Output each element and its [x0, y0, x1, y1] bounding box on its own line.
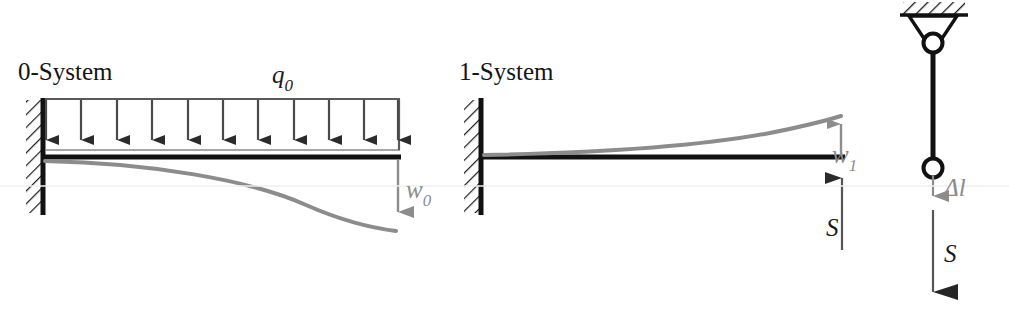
deflection-label-w0: w0	[406, 176, 432, 210]
fixed-support-one	[464, 98, 481, 215]
deflection-curve-one	[484, 116, 841, 155]
deflection-curve-zero	[45, 161, 396, 231]
one-system-panel: 1-System w1 S	[459, 58, 900, 250]
pinned-support-ceiling	[900, 2, 968, 15]
diagram-canvas: 0-System q0 w0 1-System w1 S	[0, 0, 1009, 321]
engineering-diagram: 0-System q0 w0 1-System w1 S	[0, 0, 1009, 321]
zero-system-title: 0-System	[18, 58, 113, 85]
ceiling-hatch	[903, 2, 965, 15]
load-label-q0: q0	[272, 61, 294, 95]
bottom-hinge-circle	[924, 159, 943, 178]
deflection-label-w1: w1	[832, 141, 857, 175]
elongation-label: Δl	[943, 174, 966, 201]
distributed-load-zero	[45, 99, 400, 150]
force-label-s-rod: S	[944, 240, 957, 267]
support-hatch-zero	[26, 100, 43, 213]
rod-panel: Δl S	[900, 2, 1009, 292]
zero-system-panel: 0-System q0 w0	[0, 58, 460, 231]
one-system-title: 1-System	[459, 58, 554, 85]
support-hatch-one	[464, 100, 481, 213]
fixed-support-zero	[26, 98, 43, 215]
force-label-s-one: S	[826, 214, 839, 241]
top-hinge-circle	[924, 34, 943, 53]
